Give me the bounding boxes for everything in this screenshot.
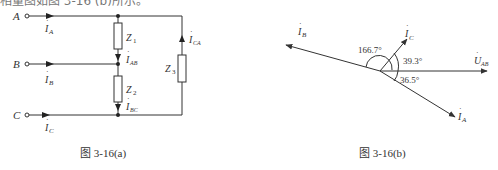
svg-text:·: · bbox=[299, 19, 302, 28]
z1-label: Z 1 bbox=[126, 32, 137, 45]
phasor-diagram bbox=[286, 39, 487, 117]
terminal-a-label: A bbox=[12, 10, 20, 22]
angle-label-166-7: 166.7° bbox=[358, 45, 382, 55]
arrow-ibc-icon bbox=[115, 104, 121, 111]
caption-a: 图 3-16(a) bbox=[80, 147, 126, 160]
terminal-a-icon bbox=[25, 14, 29, 18]
svg-text:3: 3 bbox=[172, 68, 176, 76]
terminal-c-icon bbox=[25, 113, 29, 117]
svg-text:·: · bbox=[476, 48, 479, 57]
z3-label: Z 3 bbox=[165, 63, 176, 76]
svg-text:·: · bbox=[46, 16, 49, 25]
phasor-ic bbox=[380, 39, 407, 71]
current-label-ib: I · B bbox=[44, 67, 54, 87]
current-label-ic: I · C bbox=[44, 115, 54, 135]
figure-canvas: A B C I · A I · B I · C Z 1 I · AB Z 2 I… bbox=[0, 0, 498, 170]
svg-text:·: · bbox=[406, 21, 409, 30]
arrow-iab-icon bbox=[115, 54, 121, 61]
terminal-b-label: B bbox=[13, 58, 20, 70]
z1-resistor-icon bbox=[114, 23, 122, 49]
svg-text:C: C bbox=[409, 34, 414, 42]
svg-text:·: · bbox=[46, 67, 49, 76]
svg-text:·: · bbox=[127, 47, 130, 56]
terminal-b-icon bbox=[25, 62, 29, 66]
arc-39-3 bbox=[394, 53, 399, 71]
angle-label-36-5: 36.5° bbox=[400, 75, 420, 85]
current-label-ibc: I · BC bbox=[125, 94, 139, 113]
terminal-c-label: C bbox=[13, 109, 21, 121]
phasor-label-ia: I · A bbox=[457, 104, 467, 124]
svg-text:Z: Z bbox=[165, 63, 171, 74]
svg-text:BC: BC bbox=[130, 107, 139, 113]
svg-text:A: A bbox=[461, 116, 467, 124]
svg-text:·: · bbox=[190, 27, 193, 36]
arrow-ica-icon bbox=[179, 35, 185, 42]
phasor-label-uab: U · AB bbox=[474, 48, 489, 67]
svg-text:·: · bbox=[46, 115, 49, 124]
svg-text:A: A bbox=[48, 28, 54, 36]
caption-b: 图 3-16(b) bbox=[359, 147, 406, 160]
svg-text:AB: AB bbox=[129, 60, 138, 66]
current-label-ica: I · CA bbox=[188, 27, 201, 46]
svg-text:B: B bbox=[302, 31, 307, 39]
arc-36-5 bbox=[394, 71, 398, 81]
phasor-label-ib: I · B bbox=[297, 19, 307, 39]
svg-text:Z: Z bbox=[126, 32, 132, 43]
svg-text:B: B bbox=[49, 79, 54, 87]
z3-resistor-icon bbox=[178, 55, 186, 82]
svg-text:·: · bbox=[459, 104, 462, 113]
svg-text:·: · bbox=[127, 94, 130, 103]
svg-text:2: 2 bbox=[133, 89, 137, 97]
svg-text:AB: AB bbox=[480, 61, 489, 67]
svg-text:C: C bbox=[49, 127, 54, 135]
current-label-iab: I · AB bbox=[125, 47, 138, 66]
svg-text:1: 1 bbox=[133, 37, 137, 45]
svg-text:CA: CA bbox=[193, 40, 201, 46]
current-label-ia: I · A bbox=[44, 16, 54, 36]
angle-label-39-3: 39.3° bbox=[403, 56, 423, 66]
phasor-label-ic: I · C bbox=[404, 21, 414, 42]
z2-resistor-icon bbox=[114, 76, 122, 102]
